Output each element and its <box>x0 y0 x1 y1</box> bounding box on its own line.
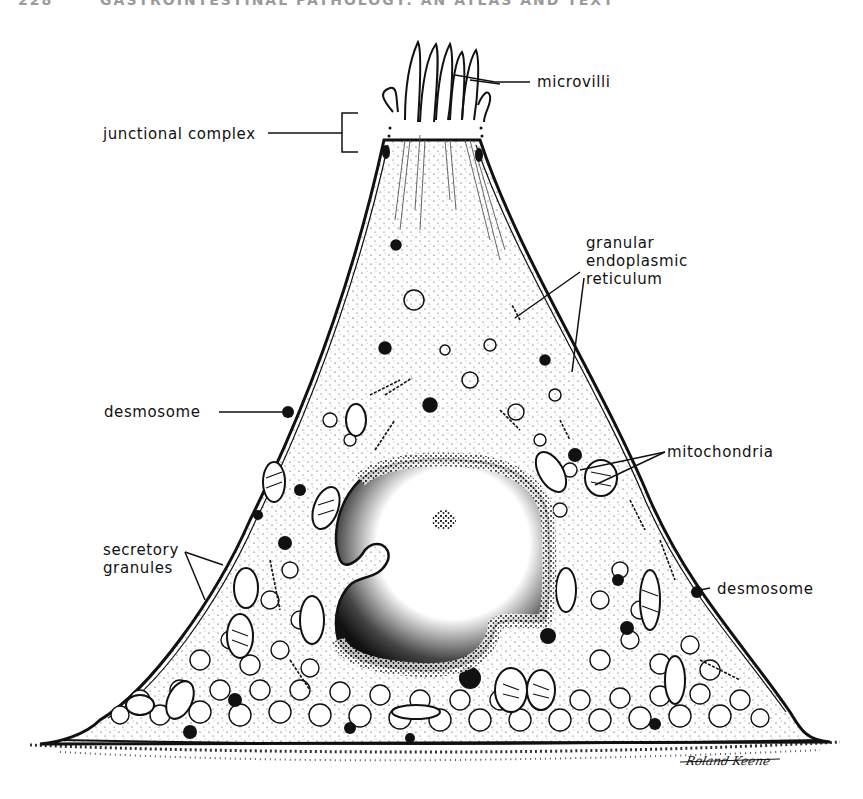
artist-signature: Roland Keene <box>685 754 772 768</box>
label-mitochondria: mitochondria <box>667 443 774 461</box>
label-desmosome-right: desmosome <box>717 580 814 598</box>
label-desmosome-left: desmosome <box>104 403 201 421</box>
cell-illustration <box>0 0 863 799</box>
label-granular-er-2: endoplasmic <box>586 252 688 270</box>
microvilli <box>383 42 490 122</box>
label-junctional-complex: junctional complex <box>103 125 256 143</box>
label-secretory-1: secretory <box>103 541 179 559</box>
label-granular-er-1: granular <box>586 234 654 252</box>
label-secretory-2: granules <box>103 559 173 577</box>
label-microvilli: microvilli <box>537 73 611 91</box>
label-granular-er-3: reticulum <box>586 270 663 288</box>
